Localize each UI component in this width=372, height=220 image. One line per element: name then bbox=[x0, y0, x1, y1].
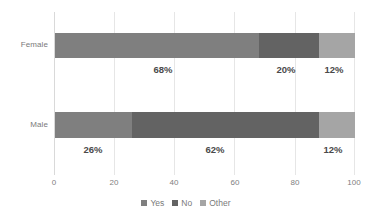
y-axis-label-male: Male bbox=[0, 120, 48, 129]
data-label-female-yes: 68% bbox=[153, 64, 172, 75]
legend-item-no[interactable]: No bbox=[172, 198, 192, 208]
x-tick-label-60: 60 bbox=[231, 178, 240, 187]
data-label-female-no: 20% bbox=[276, 64, 295, 75]
data-label-male-no: 62% bbox=[205, 144, 224, 155]
bar-segment-female-no[interactable] bbox=[259, 33, 319, 58]
legend-swatch-no-icon bbox=[172, 200, 178, 206]
stacked-bar-chart: Female Male 68% 20% 12% 26% 62% 12% 0 20… bbox=[0, 0, 372, 220]
x-tick-label-100: 100 bbox=[347, 178, 360, 187]
chart-legend: Yes No Other bbox=[0, 198, 372, 208]
data-label-male-other: 12% bbox=[323, 144, 342, 155]
bar-segment-female-other[interactable] bbox=[319, 33, 355, 58]
legend-item-other[interactable]: Other bbox=[200, 198, 230, 208]
x-tick-label-20: 20 bbox=[110, 178, 119, 187]
x-axis-ticks: 0 20 40 60 80 100 bbox=[54, 178, 355, 190]
bar-male[interactable] bbox=[54, 112, 355, 138]
bar-female[interactable] bbox=[54, 33, 355, 58]
data-label-male-yes: 26% bbox=[83, 144, 102, 155]
y-axis-line bbox=[54, 12, 55, 175]
bar-segment-female-yes[interactable] bbox=[54, 33, 259, 58]
legend-swatch-other-icon bbox=[200, 200, 206, 206]
x-tick-label-40: 40 bbox=[170, 178, 179, 187]
x-tick-label-0: 0 bbox=[52, 178, 56, 187]
bar-segment-male-no[interactable] bbox=[132, 112, 319, 138]
data-label-female-other: 12% bbox=[324, 64, 343, 75]
legend-label-other: Other bbox=[209, 198, 230, 208]
x-tick-label-80: 80 bbox=[291, 178, 300, 187]
bar-segment-male-other[interactable] bbox=[319, 112, 355, 138]
legend-swatch-yes-icon bbox=[141, 200, 147, 206]
y-axis-label-female: Female bbox=[0, 40, 48, 49]
legend-label-yes: Yes bbox=[150, 198, 164, 208]
legend-label-no: No bbox=[181, 198, 192, 208]
legend-item-yes[interactable]: Yes bbox=[141, 198, 164, 208]
bar-segment-male-yes[interactable] bbox=[54, 112, 132, 138]
